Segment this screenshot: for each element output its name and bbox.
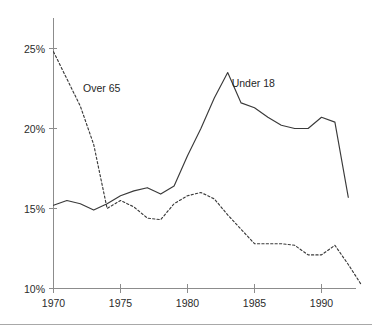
y-axis-labels: 25% 20% 15% 10% [24,43,45,295]
footer-divider [0,324,372,325]
y-tick-label-15: 15% [24,203,45,215]
series-label-under-18: Under 18 [232,77,275,89]
y-tick-label-20: 20% [24,123,45,135]
y-tick-label-25: 25% [24,43,45,55]
x-tick-label-1990: 1990 [310,297,334,309]
x-tick-label-1985: 1985 [243,297,267,309]
line-chart: 25% 20% 15% 10% 1970 1975 1980 1985 1990… [0,0,372,331]
x-axis-labels: 1970 1975 1980 1985 1990 [42,297,334,309]
series-label-over-65: Over 65 [83,82,121,94]
chart-figure: 25% 20% 15% 10% 1970 1975 1980 1985 1990… [0,0,372,331]
x-tick-label-1970: 1970 [42,297,66,309]
x-tick-label-1975: 1975 [109,297,133,309]
y-tick-label-10: 10% [24,283,45,295]
x-tick-label-1980: 1980 [176,297,200,309]
